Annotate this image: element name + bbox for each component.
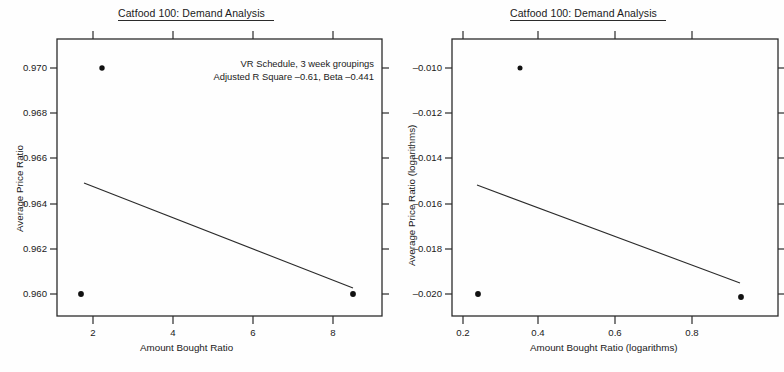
right-regression-line	[477, 185, 740, 283]
right-x-tick-label: 0.4	[520, 327, 556, 338]
left-x-ticks-mirror	[93, 31, 333, 39]
left-annotation-line-2: Adjusted R Square –0.61, Beta –0.441	[196, 71, 374, 84]
panel-left: Catfood 100: Demand Analysis	[0, 0, 392, 372]
left-x-ticks	[93, 316, 333, 324]
right-data-point	[518, 66, 523, 71]
left-y-tick-label: 0.960	[0, 288, 47, 299]
right-y-tick-label: –0.012	[392, 107, 442, 118]
right-y-ticks-mirror	[778, 68, 784, 294]
left-y-axis-label: Average Price Ratio	[14, 145, 25, 232]
left-data-point	[78, 291, 84, 297]
left-y-ticks-mirror	[382, 68, 389, 294]
left-x-tick-label: 2	[78, 327, 108, 338]
right-data-point	[738, 294, 744, 300]
right-y-tick-label: –0.010	[392, 62, 442, 73]
right-plot-frame	[452, 39, 778, 316]
right-data-point	[475, 291, 481, 297]
right-y-tick-label: –0.018	[392, 243, 442, 254]
right-x-axis-label: Amount Bought Ratio (logarithms)	[530, 342, 678, 353]
left-y-tick-label: 0.968	[0, 107, 47, 118]
right-y-axis-label: Average Price Ratio (logarithms)	[406, 125, 417, 266]
right-plot-graphics	[392, 0, 784, 372]
right-x-tick-label: 0.6	[597, 327, 633, 338]
right-x-tick-label: 0.8	[674, 327, 710, 338]
right-y-tick-label: –0.014	[392, 152, 442, 163]
left-plot-graphics	[0, 0, 392, 372]
right-x-ticks-mirror	[463, 31, 692, 39]
right-y-tick-label: –0.016	[392, 198, 442, 209]
left-regression-line	[84, 183, 353, 288]
left-annotation: VR Schedule, 3 week groupings Adjusted R…	[196, 58, 374, 83]
right-x-tick-label: 0.2	[445, 327, 481, 338]
panel-right: Catfood 100: Demand Analysis	[392, 0, 784, 372]
right-x-ticks	[463, 316, 692, 324]
left-x-axis-label: Amount Bought Ratio	[140, 342, 233, 353]
left-y-ticks	[50, 68, 57, 294]
left-x-tick-label: 6	[238, 327, 268, 338]
figure-canvas: Catfood 100: Demand Analysis	[0, 0, 784, 372]
left-y-tick-label: 0.962	[0, 243, 47, 254]
left-x-tick-label: 8	[318, 327, 348, 338]
left-annotation-line-1: VR Schedule, 3 week groupings	[196, 58, 374, 71]
left-y-tick-label: 0.970	[0, 62, 47, 73]
right-y-ticks	[445, 68, 452, 294]
left-data-point	[99, 65, 104, 70]
right-y-tick-label: –0.020	[392, 288, 442, 299]
left-x-tick-label: 4	[158, 327, 188, 338]
left-data-point	[350, 291, 356, 297]
